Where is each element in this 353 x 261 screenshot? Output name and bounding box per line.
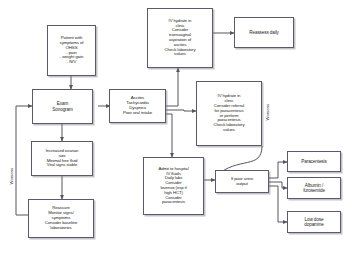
node-exam: Exam Sonogram — [32, 89, 93, 124]
node-iv-hydrate-clinic-aspiration: IV hydrate in clinic Consider transvagin… — [147, 8, 213, 68]
node-paracentesis: Paracentesis — [287, 151, 341, 172]
node-reassess-daily-label: Reassess daily — [249, 30, 279, 35]
edge-label-worsens-left: Worsens — [9, 168, 14, 185]
node-admit-to-hospital-label: Admit to hospital IV fluids Daily labs C… — [158, 167, 188, 206]
node-increased-ovarian-size: Increased ovarian size Minimal free flui… — [31, 141, 93, 176]
node-increased-ovarian-size-label: Increased ovarian size Minimal free flui… — [46, 149, 78, 168]
node-albumin-furosemide: Albumin / furosemide — [287, 177, 341, 199]
node-ascites-label: Ascites Tachycardia Dyspnea Poor oral in… — [123, 96, 152, 116]
flowchart-canvas: Patient with symptoms of OHSS - pain - w… — [0, 0, 353, 261]
edge-label-worsens-right-text: Worsens — [265, 104, 270, 121]
node-exam-label: Exam Sonogram — [52, 101, 72, 111]
node-low-dose-dopamine-label: Low dose dopamine — [304, 217, 323, 227]
node-iv-hydrate-clinic-paracentesis: IV hydrate in clinic Consider referral f… — [196, 81, 262, 146]
node-poor-urine-output-label: If poor urine output — [231, 177, 253, 187]
node-iv-hydrate-clinic-paracentesis-label: IV hydrate in clinic Consider referral f… — [214, 94, 245, 133]
node-ascites: Ascites Tachycardia Dyspnea Poor oral in… — [109, 89, 166, 123]
node-reassure: Reassure Monitor signs/ symptoms Conside… — [28, 199, 94, 238]
edge-label-worsens-right: Worsens — [265, 104, 270, 121]
node-reassess-daily: Reassess daily — [234, 17, 294, 48]
node-low-dose-dopamine: Low dose dopamine — [287, 211, 341, 233]
node-patient-label: Patient with symptoms of OHSS - pain - w… — [60, 36, 84, 66]
node-albumin-furosemide-label: Albumin / furosemide — [303, 183, 325, 193]
node-iv-hydrate-clinic-aspiration-label: IV hydrate in clinic Consider transvagin… — [165, 19, 196, 58]
edge-label-worsens-left-text: Worsens — [9, 168, 14, 185]
node-patient: Patient with symptoms of OHSS - pain - w… — [47, 25, 96, 76]
node-reassure-label: Reassure Monitor signs/ symptoms Conside… — [45, 206, 78, 230]
node-admit-to-hospital: Admit to hospital IV fluids Daily labs C… — [143, 157, 204, 215]
node-paracentesis-label: Paracentesis — [301, 159, 326, 164]
node-poor-urine-output: If poor urine output — [215, 170, 269, 193]
